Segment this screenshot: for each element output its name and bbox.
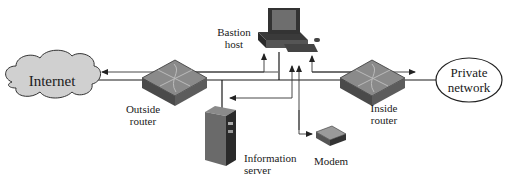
outside-router-label-line2: router xyxy=(130,115,157,127)
inside-router-label-line1: Inside xyxy=(371,102,398,114)
inside-router: Inside router xyxy=(340,60,405,126)
information-server-label-line2: server xyxy=(244,164,271,176)
private-network: Private network xyxy=(436,58,502,102)
modem-label: Modem xyxy=(314,155,349,167)
private-network-label-line1: Private xyxy=(451,65,488,80)
private-network-label-line2: network xyxy=(448,80,491,95)
bastion-host-label-line1: Bastion xyxy=(217,26,251,38)
modem: Modem xyxy=(314,126,349,167)
internet-cloud: Internet xyxy=(6,50,101,98)
outside-router: Outside router xyxy=(126,60,207,127)
bastion-host: Bastion host xyxy=(217,8,320,52)
inside-router-label-line2: router xyxy=(371,114,398,126)
outside-router-label-line1: Outside xyxy=(126,103,160,115)
internet-label: Internet xyxy=(29,73,76,89)
information-server: Information server xyxy=(205,106,297,176)
network-diagram: Internet Outside router Bastion host Inf… xyxy=(0,0,505,183)
information-server-label-line1: Information xyxy=(244,152,297,164)
bastion-host-label-line2: host xyxy=(225,38,243,50)
